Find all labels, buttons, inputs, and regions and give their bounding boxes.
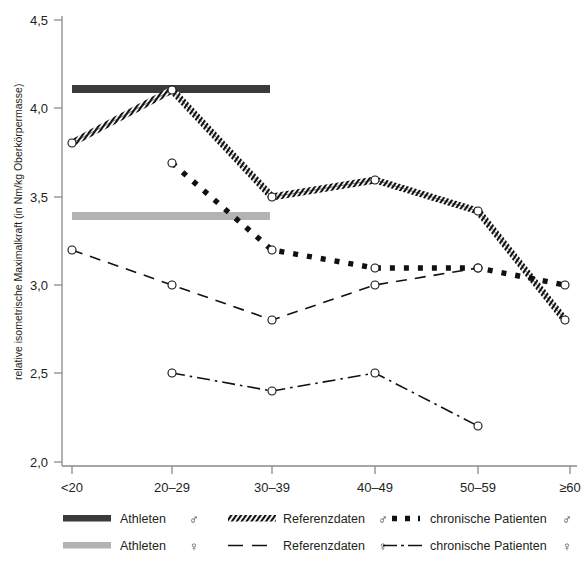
- legend-swatch-athleten-maennlich: [63, 515, 111, 522]
- legend-gender-female-icon: ♀: [189, 539, 199, 554]
- legend-label-referenzdaten-maennlich: Referenzdaten: [283, 512, 365, 526]
- legend-label-chronische-patienten-maennlich: chronische Patienten: [430, 512, 547, 526]
- legend-label-referenzdaten-weiblich: Referenzdaten: [283, 539, 365, 553]
- legend-gender-female-icon: ♀: [378, 539, 388, 554]
- legend-gender-male-icon: ♂: [562, 512, 572, 527]
- legend-swatch-referenzdaten-maennlich: [228, 515, 276, 522]
- series-referenzdaten-maennlich: [0, 0, 587, 566]
- legend-label-chronische-patienten-weiblich: chronische Patienten: [430, 539, 547, 553]
- chart-figure: 4,5 4,0 3,5 3,0 2,5 2,0 <20 20–29 30–39 …: [0, 0, 587, 566]
- legend-gender-female-icon: ♀: [562, 539, 572, 554]
- legend-label-athleten-weiblich: Athleten: [120, 539, 166, 553]
- legend-label-athleten-maennlich: Athleten: [120, 512, 166, 526]
- legend-gender-male-icon: ♂: [378, 512, 388, 527]
- legend-gender-male-icon: ♂: [189, 512, 199, 527]
- line-chart: 4,5 4,0 3,5 3,0 2,5 2,0 <20 20–29 30–39 …: [0, 0, 587, 566]
- legend-swatch-athleten-weiblich: [63, 542, 111, 549]
